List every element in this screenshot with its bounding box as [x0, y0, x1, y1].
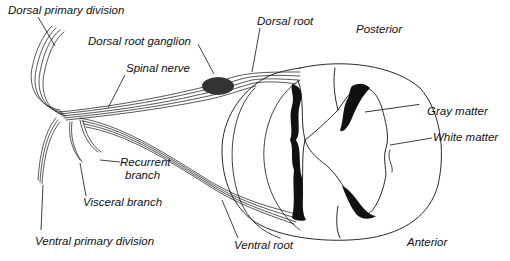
label-dorsal-root-ganglion: Dorsal root ganglion: [88, 35, 191, 48]
label-visceral-branch: Visceral branch: [83, 196, 162, 209]
gray-matter-outline: [298, 80, 387, 218]
label-anterior: Anterior: [407, 236, 447, 249]
label-recurrent-branch-line1: Recurrent: [120, 156, 171, 169]
spinal-cord-outline: [222, 64, 441, 241]
label-gray-matter: Gray matter: [427, 105, 488, 118]
label-recurrent-branch-line2: branch: [125, 169, 160, 182]
label-posterior: Posterior: [356, 23, 402, 36]
label-dorsal-primary-division: Dorsal primary division: [8, 4, 124, 17]
dorsal-root-ganglion-shape: [202, 77, 234, 95]
spinal-nerve-diagram: Dorsal primary division Dorsal root gang…: [0, 0, 510, 261]
label-spinal-nerve: Spinal nerve: [126, 62, 190, 75]
label-white-matter: White matter: [433, 131, 498, 144]
label-dorsal-root: Dorsal root: [257, 15, 313, 28]
label-ventral-primary-division: Ventral primary division: [35, 235, 154, 248]
label-ventral-root: Ventral root: [234, 239, 293, 252]
